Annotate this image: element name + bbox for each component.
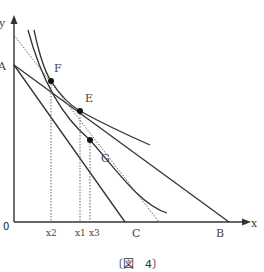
point-e-label: E — [85, 92, 93, 105]
point-g-marker — [87, 137, 93, 143]
origin-label: 0 — [3, 221, 9, 232]
tick-x2-label: x2 — [46, 228, 57, 238]
point-c-label: C — [132, 227, 140, 240]
tick-x3-label: x3 — [89, 228, 100, 238]
point-b-label: B — [216, 227, 224, 240]
point-a-label: A — [0, 60, 7, 73]
point-g-label: G — [101, 152, 110, 165]
indifference-curve-lower — [28, 30, 167, 213]
figure-caption: 〔図 4〕 — [112, 258, 163, 271]
point-f-marker — [48, 78, 54, 84]
point-e-marker — [77, 108, 83, 114]
x-axis-label: x — [251, 217, 258, 230]
y-axis-arrow-icon — [11, 15, 18, 24]
tick-x1-label: x1 — [75, 228, 86, 238]
budget-line-ab — [14, 65, 229, 222]
point-f-label: F — [54, 62, 62, 75]
y-axis-label: y — [0, 17, 6, 30]
budget-line-ac — [14, 65, 125, 222]
diagram-canvas: y 0 x A F E G C B x2 x1 x3 〔図 4〕 — [0, 0, 264, 272]
x-axis-arrow-icon — [242, 219, 251, 226]
